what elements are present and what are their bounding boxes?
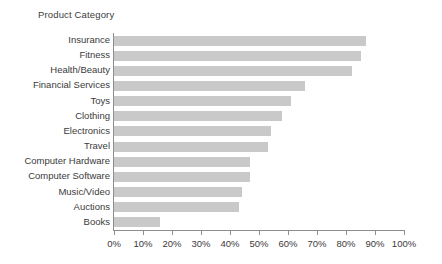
category-label: Computer Hardware [24, 153, 110, 168]
x-axis-tick-label: 0% [107, 238, 121, 249]
x-axis-tick-label: 50% [249, 238, 268, 249]
x-axis-tick-label: 60% [278, 238, 297, 249]
chart-row: Electronics [114, 124, 404, 139]
category-label: Clothing [75, 108, 110, 123]
x-axis-tick [143, 230, 144, 235]
bar [114, 51, 361, 61]
chart-row: Health/Beauty [114, 63, 404, 78]
bar [114, 142, 268, 152]
x-axis-tick [375, 230, 376, 235]
category-label: Computer Software [28, 168, 110, 183]
bar [114, 157, 250, 167]
chart-row: Computer Software [114, 169, 404, 184]
bar [114, 202, 239, 212]
bar [114, 66, 352, 76]
chart-row: Computer Hardware [114, 154, 404, 169]
x-axis-tick [317, 230, 318, 235]
bar [114, 187, 242, 197]
chart-row: Auctions [114, 200, 404, 215]
category-label: Fitness [79, 47, 110, 62]
bar [114, 96, 291, 106]
bar [114, 111, 282, 121]
category-label: Electronics [64, 123, 110, 138]
page-title: Product Category [38, 9, 114, 20]
x-axis-tick [346, 230, 347, 235]
x-axis-tick [259, 230, 260, 235]
category-label: Auctions [74, 199, 110, 214]
x-axis-tick-label: 40% [220, 238, 239, 249]
category-label: Books [84, 214, 110, 229]
bar [114, 217, 160, 227]
chart-row: Travel [114, 139, 404, 154]
x-axis-tick [114, 230, 115, 235]
bar [114, 172, 250, 182]
x-axis-tick [288, 230, 289, 235]
category-label: Insurance [68, 32, 110, 47]
chart-row: Insurance [114, 33, 404, 48]
chart-row: Music/Video [114, 185, 404, 200]
category-label: Health/Beauty [50, 62, 110, 77]
x-axis-tick-label: 70% [307, 238, 326, 249]
x-axis-tick-label: 80% [336, 238, 355, 249]
bar-chart: Product Category InsuranceFitnessHealth/… [0, 0, 442, 264]
x-axis-tick-label: 20% [162, 238, 181, 249]
x-axis-tick-label: 100% [392, 238, 416, 249]
x-axis-tick [230, 230, 231, 235]
category-label: Financial Services [33, 77, 110, 92]
chart-row: Toys [114, 94, 404, 109]
bar [114, 81, 305, 91]
category-label: Toys [90, 93, 110, 108]
chart-row: Financial Services [114, 78, 404, 93]
chart-row: Clothing [114, 109, 404, 124]
x-axis-tick [201, 230, 202, 235]
plot-area: InsuranceFitnessHealth/BeautyFinancial S… [114, 33, 404, 230]
bar [114, 126, 271, 136]
x-axis-tick [404, 230, 405, 235]
category-label: Travel [84, 138, 110, 153]
x-axis-tick-label: 30% [191, 238, 210, 249]
x-axis-tick-label: 90% [365, 238, 384, 249]
category-label: Music/Video [58, 184, 110, 199]
chart-row: Books [114, 215, 404, 230]
bar [114, 36, 366, 46]
chart-row: Fitness [114, 48, 404, 63]
x-axis-tick [172, 230, 173, 235]
x-axis-tick-label: 10% [133, 238, 152, 249]
